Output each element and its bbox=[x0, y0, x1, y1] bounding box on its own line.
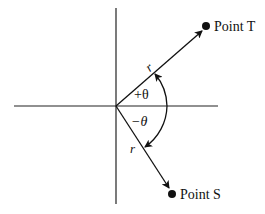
negative-theta-label: −θ bbox=[131, 114, 147, 129]
negative-angle-arc bbox=[145, 106, 167, 147]
point-t-dot bbox=[202, 22, 210, 30]
lower-r-label: r bbox=[130, 141, 136, 156]
point-s-dot bbox=[168, 190, 176, 198]
point-s-label: Point S bbox=[180, 187, 221, 202]
positive-angle-arc bbox=[155, 74, 167, 106]
vector-to-point-t bbox=[116, 31, 202, 106]
upper-r-label: r bbox=[142, 59, 156, 74]
point-t-label: Point T bbox=[214, 19, 256, 34]
polar-angle-diagram: Point T Point S r r +θ −θ bbox=[0, 0, 265, 214]
positive-theta-label: +θ bbox=[134, 87, 149, 102]
